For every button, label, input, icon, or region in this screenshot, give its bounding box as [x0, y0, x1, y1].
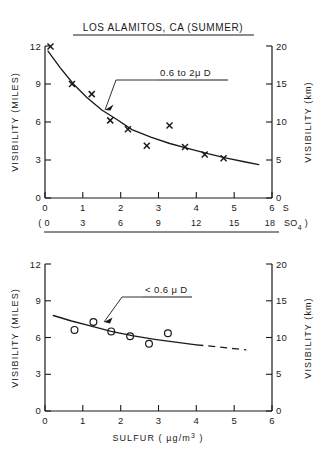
top-right-axis-title: VISIBILITY (km): [303, 81, 313, 162]
top-fit-curve: [48, 51, 259, 165]
top-so4-tick-18: 18: [265, 218, 276, 228]
top-data-markers: [48, 44, 227, 162]
top-left-axis-title: VISIBILITY (MILES): [10, 72, 20, 172]
top-annotation-label: 0.6 to 2μ D: [160, 67, 211, 78]
bottom-y2tick-5: 5: [276, 368, 282, 379]
bottom-panel: 0 3 6 9 12 VISIBILITY (MILES) 0 5 10 15 …: [10, 259, 313, 443]
top-y2tick-0: 0: [276, 192, 282, 203]
bottom-xtick-6: 6: [269, 415, 275, 426]
top-so4-axis-label: SO4 ): [284, 218, 308, 231]
figure-container: LOS ALAMITOS, CA (SUMMER) 0 3 6 9 12 VIS…: [0, 0, 327, 454]
top-so4-tick-9: 9: [156, 218, 161, 228]
top-xtick-3: 3: [156, 202, 162, 213]
data-point-marker: [89, 91, 95, 97]
bottom-xaxis-title: SULFUR ( µg/m3 ): [112, 432, 203, 444]
bottom-left-y-ticks: [45, 264, 51, 411]
two-panel-visibility-figure: LOS ALAMITOS, CA (SUMMER) 0 3 6 9 12 VIS…: [0, 0, 327, 454]
bottom-xtick-5: 5: [231, 415, 237, 426]
top-ytick-6: 6: [35, 116, 41, 127]
bottom-xtick-2: 2: [118, 415, 124, 426]
top-xtick-4: 4: [194, 202, 200, 213]
data-point-marker: [144, 143, 150, 149]
top-y2tick-5: 5: [276, 154, 282, 165]
top-left-y-ticks: [45, 46, 51, 198]
bottom-y2tick-15: 15: [276, 295, 287, 306]
data-point-marker: [165, 330, 172, 337]
data-point-marker: [146, 340, 153, 347]
top-ytick-3: 3: [35, 154, 41, 165]
data-point-marker: [107, 117, 113, 123]
bottom-xtick-3: 3: [156, 415, 162, 426]
bottom-ytick-3: 3: [35, 368, 41, 379]
bottom-ytick-9: 9: [35, 295, 41, 306]
top-so4-tick-12: 12: [191, 218, 202, 228]
top-xtick-2: 2: [118, 202, 124, 213]
top-right-y-ticks: [266, 46, 272, 198]
bottom-right-y-ticks: [266, 264, 272, 411]
bottom-ytick-6: 6: [35, 332, 41, 343]
top-xaxis-unit-s: S: [283, 203, 289, 213]
top-so4-tick-3: 3: [80, 218, 85, 228]
top-so4-tick-6: 6: [118, 218, 123, 228]
top-y2tick-15: 15: [276, 78, 287, 89]
data-point-marker: [167, 123, 173, 129]
bottom-xtick-1: 1: [80, 415, 86, 426]
data-point-marker: [71, 327, 78, 334]
top-xtick-5: 5: [231, 202, 237, 213]
top-ytick-0: 0: [35, 192, 41, 203]
bottom-fit-curve-dashed: [196, 345, 246, 350]
bottom-annotation-label: < 0.6 μ D: [145, 284, 188, 295]
bottom-right-axis-title: VISIBILITY (km): [303, 297, 313, 378]
page-title: LOS ALAMITOS, CA (SUMMER): [83, 22, 243, 33]
top-xtick-0: 0: [42, 202, 48, 213]
top-ytick-12: 12: [30, 41, 41, 52]
bottom-x-ticks: [45, 405, 272, 411]
bottom-ytick-12: 12: [30, 259, 41, 270]
top-y2tick-20: 20: [276, 41, 287, 52]
bottom-y2tick-10: 10: [276, 332, 287, 343]
top-ytick-9: 9: [35, 78, 41, 89]
top-xtick-1: 1: [80, 202, 86, 213]
bottom-annotation-leader: [104, 297, 143, 322]
top-xtick-6: 6: [269, 202, 275, 213]
data-point-marker: [90, 319, 97, 326]
top-x-ticks: [45, 192, 272, 198]
bottom-y2tick-0: 0: [276, 405, 282, 416]
bottom-left-axis-title: VISIBILITY (MILES): [10, 288, 20, 388]
top-so4-tick-0: ( 0: [38, 218, 49, 228]
bottom-ytick-0: 0: [35, 405, 41, 416]
bottom-y2tick-20: 20: [276, 259, 287, 270]
top-y2tick-10: 10: [276, 116, 287, 127]
bottom-fit-curve: [53, 316, 196, 345]
bottom-xtick-0: 0: [42, 415, 48, 426]
top-panel: LOS ALAMITOS, CA (SUMMER) 0 3 6 9 12 VIS…: [10, 22, 313, 232]
top-so4-tick-15: 15: [229, 218, 240, 228]
bottom-xtick-4: 4: [194, 415, 200, 426]
